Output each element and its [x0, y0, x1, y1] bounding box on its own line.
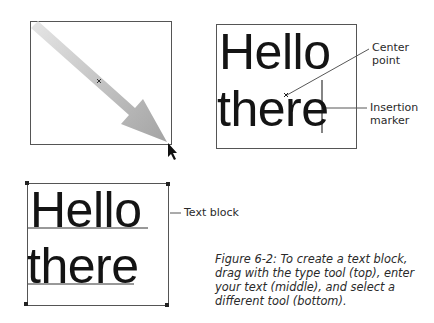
- handle-bottom-left[interactable]: [24, 302, 28, 306]
- handle-top-left[interactable]: [25, 181, 29, 185]
- handle-top-right[interactable]: [166, 182, 170, 186]
- center-point-label: Center point: [372, 41, 409, 67]
- entered-text-line-2: there: [217, 84, 328, 134]
- text-block-line-1: Hello: [30, 185, 141, 235]
- text-block-line-2: there: [27, 241, 138, 291]
- insertion-marker-label: Insertion marker: [370, 101, 418, 127]
- handle-bottom-right[interactable]: [165, 303, 169, 307]
- text-block-label: Text block: [184, 206, 239, 219]
- figure-caption: Figure 6-2: To create a text block, drag…: [215, 252, 430, 308]
- mouse-pointer-icon: [168, 143, 177, 160]
- entered-text-line-1: Hello: [219, 27, 330, 77]
